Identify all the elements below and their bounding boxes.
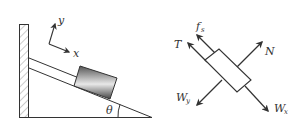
weight-x-label: W x	[274, 102, 288, 116]
incline-figure: θ y x	[19, 14, 152, 118]
weight-y-arrow	[197, 80, 222, 105]
rope	[29, 58, 79, 78]
angle-label: θ	[106, 104, 113, 117]
wall	[20, 25, 29, 118]
svg-text:y: y	[185, 97, 191, 105]
svg-text:s: s	[201, 26, 205, 34]
y-axis-arrow	[49, 24, 55, 44]
tension-arrow	[188, 43, 207, 62]
physics-diagram: θ y x T f s N W y W x	[0, 0, 305, 125]
y-axis-label: y	[57, 14, 65, 27]
coordinate-axes: y x	[49, 14, 80, 60]
block	[74, 66, 117, 99]
friction-arrow	[197, 35, 216, 54]
weight-x-arrow	[245, 86, 268, 111]
normal-label: N	[264, 45, 275, 58]
angle-arc	[118, 105, 120, 118]
weight-y-label: W y	[176, 91, 191, 105]
x-axis-arrow	[49, 44, 69, 52]
tension-label: T	[174, 38, 183, 51]
normal-arrow	[236, 42, 262, 68]
free-body-diagram: T f s N W y W x	[174, 20, 288, 116]
friction-label: f s	[195, 20, 205, 34]
x-axis-label: x	[73, 47, 80, 60]
fbd-block	[205, 49, 251, 92]
svg-text:x: x	[284, 108, 288, 116]
